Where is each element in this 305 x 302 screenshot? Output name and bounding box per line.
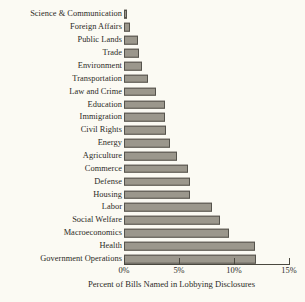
- bar-row: Housing: [0, 188, 305, 201]
- bar-row: Education: [0, 98, 305, 111]
- bar: [124, 177, 190, 186]
- bar: [124, 229, 229, 238]
- bar: [124, 190, 190, 199]
- x-axis: 0%5%10%15% Percent of Bills Named in Lob…: [0, 258, 305, 302]
- bar: [124, 139, 170, 148]
- category-label: Civil Rights: [81, 126, 122, 134]
- bar-row: Energy: [0, 137, 305, 150]
- category-label: Housing: [93, 190, 122, 198]
- bar: [124, 216, 220, 225]
- bar-row: Defense: [0, 175, 305, 188]
- bar-row: Labor: [0, 201, 305, 214]
- bar: [124, 10, 127, 19]
- category-label: Transportation: [72, 75, 122, 83]
- bar: [124, 87, 156, 96]
- bar-row: Civil Rights: [0, 124, 305, 137]
- bar: [124, 23, 130, 32]
- category-label: Environment: [78, 62, 122, 70]
- bar: [124, 100, 165, 109]
- category-label: Science & Communication: [30, 10, 122, 18]
- x-axis-line: [124, 264, 289, 265]
- category-label: Labor: [102, 203, 122, 211]
- bar-row: Law and Crime: [0, 85, 305, 98]
- bar: [124, 74, 148, 83]
- bar-row: Social Welfare: [0, 214, 305, 227]
- bar-row: Macroeconomics: [0, 227, 305, 240]
- bar-row: Agriculture: [0, 150, 305, 163]
- x-tick-label: 10%: [226, 267, 241, 275]
- category-label: Immigration: [80, 113, 122, 121]
- category-label: Trade: [103, 49, 122, 57]
- category-label: Commerce: [85, 165, 122, 173]
- bar: [124, 152, 177, 161]
- category-label: Social Welfare: [72, 216, 122, 224]
- bar: [124, 36, 138, 45]
- x-axis-title: Percent of Bills Named in Lobbying Discl…: [0, 280, 305, 289]
- category-label: Agriculture: [83, 152, 122, 160]
- category-label: Public Lands: [77, 36, 122, 44]
- x-tick-label: 15%: [281, 267, 296, 275]
- bar-row: Health: [0, 240, 305, 253]
- bar: [124, 165, 188, 174]
- x-tick-label: 0%: [118, 267, 129, 275]
- bar: [124, 203, 212, 212]
- bar: [124, 49, 139, 58]
- bar-row: Transportation: [0, 72, 305, 85]
- bar-row: Environment: [0, 59, 305, 72]
- bar-row: Immigration: [0, 111, 305, 124]
- category-label: Education: [88, 100, 122, 108]
- category-label: Energy: [98, 139, 122, 147]
- bar-row: Foreign Affairs: [0, 21, 305, 34]
- x-tick: [289, 258, 290, 265]
- bar: [124, 113, 165, 122]
- x-tick: [124, 258, 125, 265]
- bar: [124, 242, 255, 251]
- category-label: Law and Crime: [69, 87, 122, 95]
- bar-row: Commerce: [0, 162, 305, 175]
- x-tick: [179, 258, 180, 265]
- bar-row: Science & Communication: [0, 8, 305, 21]
- category-label: Macroeconomics: [64, 229, 122, 237]
- bar: [124, 62, 142, 71]
- category-label: Defense: [94, 178, 122, 186]
- category-label: Health: [99, 242, 122, 250]
- bar-row: Trade: [0, 47, 305, 60]
- x-tick-label: 5%: [173, 267, 184, 275]
- x-axis-title-text: Percent of Bills Named in Lobbying Discl…: [88, 280, 255, 289]
- bar-chart: Science & CommunicationForeign AffairsPu…: [0, 0, 305, 302]
- plot-area: Science & CommunicationForeign AffairsPu…: [0, 0, 305, 258]
- bar-row: Public Lands: [0, 34, 305, 47]
- x-tick: [234, 258, 235, 265]
- category-label: Foreign Affairs: [70, 23, 122, 31]
- bar: [124, 126, 166, 135]
